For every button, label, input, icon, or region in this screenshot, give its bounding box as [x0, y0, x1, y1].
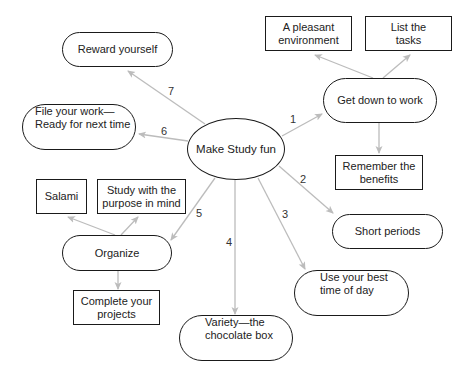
study-line-1: Study with the [107, 184, 176, 197]
variety-line-1: Variety—the [205, 316, 265, 329]
file-line-2: Ready for next time [35, 118, 130, 131]
organize-label: Organize [95, 247, 140, 260]
arrow-label-3: 3 [282, 208, 288, 220]
node-salami: Salami [36, 179, 87, 214]
short-periods-label: Short periods [355, 225, 420, 238]
list-line-1: List the [391, 21, 426, 34]
study-line-2: purpose in mind [102, 197, 180, 210]
get-down-label: Get down to work [337, 94, 423, 107]
complete-line-2: projects [97, 308, 136, 321]
list-line-2: tasks [396, 34, 422, 47]
variety-line-2: chocolate box [205, 329, 273, 342]
node-reward-yourself: Reward yourself [62, 32, 173, 67]
arrow-label-1: 1 [290, 113, 296, 125]
arrow-label-5: 5 [196, 207, 202, 219]
arrow-getdown-pleasant [315, 55, 373, 78]
arrow-label-2: 2 [300, 173, 306, 185]
node-pleasant-environment: A pleasant environment [265, 16, 352, 51]
node-get-down-to-work: Get down to work [323, 78, 437, 123]
arrow-getdown-list [383, 55, 410, 78]
node-best-time: Use your best time of day [294, 270, 409, 316]
node-short-periods: Short periods [332, 214, 443, 249]
node-study-purpose: Study with the purpose in mind [97, 179, 186, 214]
arrow-label-4: 4 [226, 236, 232, 248]
node-variety: Variety—the chocolate box [179, 315, 293, 361]
center-label: Make Study fun [196, 143, 276, 156]
arrow-7 [128, 71, 205, 124]
mind-map: Make Study fun Get down to work A pleasa… [0, 0, 471, 378]
node-organize: Organize [62, 235, 172, 271]
center-node: Make Study fun [187, 118, 285, 180]
arrow-3 [258, 178, 305, 269]
node-file-work: File your work— Ready for next time [22, 104, 136, 150]
arrow-organize-study [121, 217, 138, 235]
salami-label: Salami [45, 190, 79, 203]
pleasant-line-2: environment [278, 34, 339, 47]
arrow-organize-salami [68, 217, 115, 235]
remember-line-1: Remember the [343, 160, 416, 173]
arrow-label-6: 6 [161, 125, 167, 137]
node-remember-benefits: Remember the benefits [335, 155, 423, 190]
node-complete-projects: Complete your projects [73, 290, 160, 325]
pleasant-line-1: A pleasant [283, 21, 334, 34]
reward-label: Reward yourself [78, 43, 157, 56]
file-line-1: File your work— [35, 105, 114, 118]
complete-line-1: Complete your [81, 295, 153, 308]
best-time-line-1: Use your best [320, 271, 388, 284]
node-list-the-tasks: List the tasks [365, 16, 452, 51]
arrow-label-7: 7 [168, 85, 174, 97]
arrow-1 [282, 114, 322, 136]
remember-line-2: benefits [360, 173, 399, 186]
best-time-line-2: time of day [320, 284, 374, 297]
